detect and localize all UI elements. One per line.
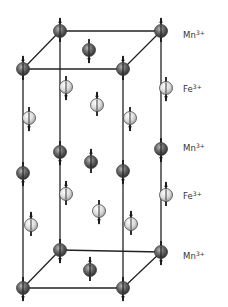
ion-charge: 3+ [193, 190, 202, 197]
fe-atom-spin-down [60, 76, 73, 101]
fe-atom-spin-down [23, 107, 36, 132]
cell-edge [123, 31, 161, 69]
mn-atom-spin-up [85, 148, 98, 173]
mn-atom-spin-up [155, 17, 168, 42]
mn-atom-spin-down [54, 141, 67, 166]
cell-edge [60, 250, 161, 252]
mn-atom-spin-up [117, 55, 130, 80]
crystal-structure-diagram: Mn3+ Fe3+ Mn3+ Fe3+ Mn3+ [0, 0, 228, 307]
cell-edge [23, 250, 60, 288]
atoms [17, 17, 173, 302]
ion-symbol: Mn [183, 143, 196, 153]
fe-atom-spin-down [93, 200, 106, 225]
mn-atom-spin-up [84, 256, 97, 281]
ion-charge: 3+ [196, 142, 205, 149]
ion-symbol: Fe [183, 191, 193, 201]
mn-atom-spin-down [155, 138, 168, 163]
ion-charge: 3+ [196, 250, 205, 257]
layer-label-mn-middle: Mn3+ [183, 142, 205, 153]
ion-charge: 3+ [193, 83, 202, 90]
ion-charge: 3+ [196, 29, 205, 36]
mn-atom-spin-down [117, 277, 130, 302]
mn-atom-spin-down [117, 160, 130, 185]
layer-label-fe-lower: Fe3+ [183, 190, 202, 201]
mn-atom-spin-down [17, 277, 30, 302]
fe-atom-spin-up [60, 180, 73, 205]
fe-atom-spin-up [125, 210, 138, 235]
fe-atom-spin-down [124, 107, 137, 132]
mn-atom-spin-down [17, 162, 30, 187]
fe-atom-spin-up [91, 91, 104, 116]
layer-label-mn-bottom: Mn3+ [183, 250, 205, 261]
mn-atom-spin-down [83, 39, 96, 64]
mn-atom-spin-down [54, 239, 67, 264]
mn-atom-spin-up [17, 55, 30, 80]
ion-symbol: Mn [183, 251, 196, 261]
layer-label-mn-top: Mn3+ [183, 29, 205, 40]
fe-atom-spin-up [25, 211, 38, 236]
cell-edge [123, 252, 161, 288]
cell-edge [23, 31, 60, 69]
mn-atom-spin-up [54, 17, 67, 42]
mn-atom-spin-down [155, 241, 168, 266]
ion-symbol: Mn [183, 30, 196, 40]
ion-symbol: Fe [183, 84, 193, 94]
layer-label-fe-upper: Fe3+ [183, 83, 202, 94]
